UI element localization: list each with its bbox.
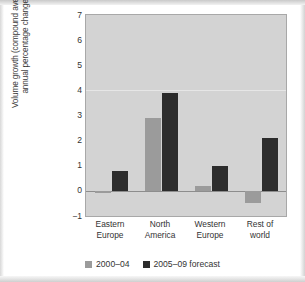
scan-artifact-top bbox=[0, 0, 305, 5]
y-tick-label: 1 bbox=[66, 161, 82, 170]
bar bbox=[162, 93, 178, 191]
legend-label: 2005–09 forecast bbox=[154, 260, 220, 269]
scan-artifact-left bbox=[0, 5, 4, 276]
bar bbox=[95, 191, 111, 194]
plot-area bbox=[85, 14, 287, 217]
bar-chart-figure: Volume growth (compound average annual p… bbox=[0, 0, 305, 282]
legend-label: 2000–04 bbox=[96, 260, 129, 269]
y-tick-label: 5 bbox=[66, 61, 82, 70]
y-tick-label: 2 bbox=[66, 136, 82, 145]
legend-item: 2000–04 bbox=[85, 260, 129, 269]
y-tick-label: 0 bbox=[66, 186, 82, 195]
y-tick-label: 6 bbox=[66, 36, 82, 45]
bar bbox=[112, 171, 128, 191]
legend-item: 2005–09 forecast bbox=[143, 260, 220, 269]
x-axis-category-label: Eastern Europe bbox=[85, 219, 135, 241]
y-tick-label: 3 bbox=[66, 111, 82, 120]
x-axis-category-labels: Eastern EuropeNorth AmericaWestern Europ… bbox=[85, 219, 287, 247]
y-tick-label: −1 bbox=[66, 212, 82, 221]
x-axis-category-label: Rest of world bbox=[235, 219, 285, 241]
y-tick-label: 7 bbox=[66, 11, 82, 20]
chart-legend: 2000–042005–09 forecast bbox=[0, 257, 305, 271]
y-axis-tick-labels: 76543210−1 bbox=[62, 0, 82, 282]
x-axis-category-label: Western Europe bbox=[185, 219, 235, 241]
bar bbox=[262, 138, 278, 191]
bar bbox=[145, 118, 161, 191]
gridline bbox=[86, 90, 286, 91]
y-axis-title: Volume growth (compound average annual p… bbox=[11, 0, 45, 130]
bar bbox=[195, 186, 211, 191]
y-tick-label: 4 bbox=[66, 86, 82, 95]
bar bbox=[212, 166, 228, 191]
scan-artifact-bottom bbox=[0, 276, 305, 282]
bar bbox=[245, 191, 261, 204]
legend-swatch-icon bbox=[143, 261, 150, 268]
legend-swatch-icon bbox=[85, 261, 92, 268]
scan-artifact-right bbox=[300, 5, 305, 276]
x-axis-category-label: North America bbox=[135, 219, 185, 241]
